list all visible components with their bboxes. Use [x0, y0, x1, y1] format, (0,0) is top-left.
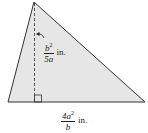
base-label: 4a2 b in.: [61, 108, 87, 132]
height-label: b2 5a in.: [44, 40, 66, 64]
triangle: [8, 2, 145, 102]
